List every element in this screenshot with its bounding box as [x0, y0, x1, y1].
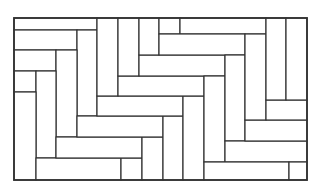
- tile-8: [36, 158, 121, 180]
- tile-22: [180, 18, 266, 34]
- tile-23: [159, 34, 245, 55]
- tile-20: [139, 18, 159, 55]
- tile-11: [142, 137, 163, 180]
- tile-10: [56, 137, 142, 158]
- tile-28: [245, 34, 266, 120]
- tile-19: [139, 55, 225, 76]
- tiling-diagram: [0, 0, 314, 186]
- tile-1: [14, 30, 77, 50]
- tile-30: [266, 18, 286, 100]
- tile-29: [266, 100, 307, 120]
- tile-15: [183, 96, 204, 180]
- tile-18: [118, 18, 139, 76]
- tile-12: [77, 116, 163, 137]
- tile-17: [118, 76, 204, 96]
- tile-26: [225, 141, 307, 162]
- tile-31: [286, 18, 307, 100]
- tile-16: [97, 18, 118, 96]
- tile-13: [163, 116, 183, 180]
- tile-21: [159, 18, 180, 34]
- tile-32: [204, 162, 289, 180]
- tile-7: [14, 92, 36, 180]
- tile-0: [14, 18, 97, 30]
- tile-24: [204, 76, 225, 162]
- tile-14: [97, 96, 183, 116]
- tile-5: [14, 71, 36, 92]
- tile-33: [289, 162, 307, 180]
- tile-3: [14, 50, 56, 71]
- tile-9: [121, 158, 142, 180]
- tile-2: [77, 30, 97, 116]
- tile-27: [245, 120, 307, 141]
- tile-6: [36, 71, 56, 158]
- tile-group: [14, 18, 307, 180]
- tile-25: [225, 55, 245, 141]
- tile-4: [56, 50, 77, 137]
